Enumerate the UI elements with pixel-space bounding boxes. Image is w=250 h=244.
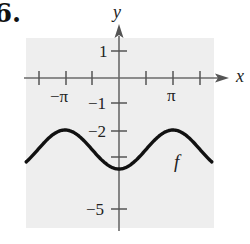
x-tick-label-pi: π (167, 86, 176, 105)
y-axis-label: y (111, 2, 121, 22)
y-axis-arrow-icon (115, 24, 124, 38)
x-tick-label-neg-pi: −π (50, 87, 69, 106)
y-tick-label-neg1: −1 (88, 94, 106, 113)
y-tick-label-neg5: −5 (86, 200, 104, 219)
graph-figure: 6. x −π π y 1 −1 −2 −5 (0, 0, 250, 244)
y-tick-label-1: 1 (99, 42, 108, 61)
problem-number: 6. (0, 0, 21, 28)
x-axis-label: x (235, 66, 244, 86)
y-tick-label-neg2: −2 (88, 122, 106, 141)
